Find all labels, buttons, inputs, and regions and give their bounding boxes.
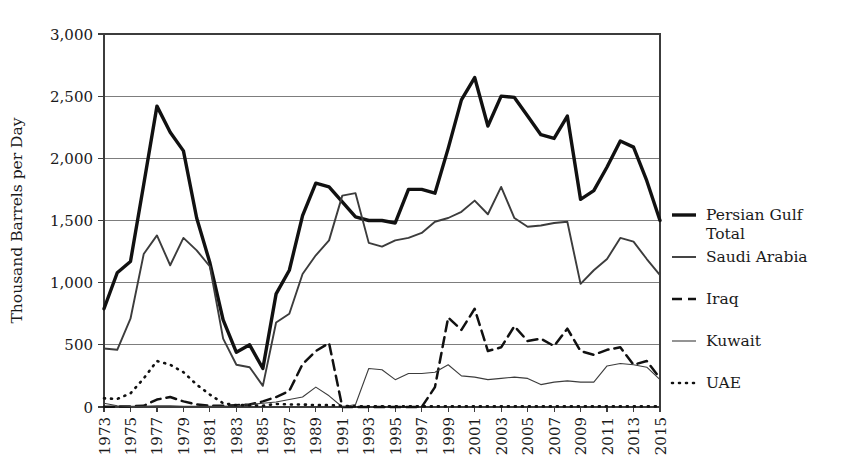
y-tick-label: 2,500 bbox=[50, 88, 93, 106]
y-tick-label: 3,000 bbox=[50, 26, 93, 44]
x-tick-label: 1975 bbox=[122, 417, 140, 455]
x-tick-label: 1991 bbox=[334, 417, 352, 455]
y-axis-title-text: Thousand Barrels per Day bbox=[8, 117, 26, 323]
x-tick-label: 1985 bbox=[254, 417, 272, 455]
x-tick-label: 2003 bbox=[493, 417, 511, 455]
x-tick-label: 2005 bbox=[519, 417, 537, 455]
x-tick-label: 1981 bbox=[201, 417, 219, 455]
legend-label: Kuwait bbox=[706, 332, 762, 350]
line-chart: 05001,0001,5002,0002,5003,000 Thousand B… bbox=[0, 0, 843, 472]
x-tick-label: 1979 bbox=[175, 417, 193, 455]
x-tick-label: 2013 bbox=[625, 417, 643, 455]
legend-label: Persian Gulf bbox=[706, 206, 804, 224]
x-tick-label: 1995 bbox=[387, 417, 405, 455]
x-tick-label: 2011 bbox=[599, 417, 617, 455]
x-tick-label: 1973 bbox=[96, 417, 114, 455]
x-tick-label: 1997 bbox=[413, 417, 431, 455]
legend-label: UAE bbox=[706, 374, 741, 392]
y-tick-label: 0 bbox=[83, 399, 93, 417]
legend-label-continued: Total bbox=[706, 225, 745, 243]
chart-container: 05001,0001,5002,0002,5003,000 Thousand B… bbox=[0, 0, 843, 472]
x-tick-label: 2007 bbox=[546, 417, 564, 455]
x-tick-label: 1977 bbox=[148, 417, 166, 455]
y-tick-label: 1,000 bbox=[50, 274, 93, 292]
x-tick-label: 1999 bbox=[440, 417, 458, 455]
legend-label: Saudi Arabia bbox=[706, 248, 808, 266]
legend-label: Iraq bbox=[706, 290, 739, 308]
x-tick-label: 1993 bbox=[360, 417, 378, 455]
x-tick-label: 2015 bbox=[652, 417, 670, 455]
x-tick-label: 1983 bbox=[228, 417, 246, 455]
y-tick-label: 1,500 bbox=[50, 212, 93, 230]
y-axis-title: Thousand Barrels per Day bbox=[8, 117, 26, 323]
x-tick-label: 2001 bbox=[466, 417, 484, 455]
y-tick-label: 500 bbox=[64, 336, 93, 354]
x-tick-label: 1987 bbox=[281, 417, 299, 455]
y-tick-label: 2,000 bbox=[50, 150, 93, 168]
x-tick-label: 1989 bbox=[307, 417, 325, 455]
x-tick-label: 2009 bbox=[572, 417, 590, 455]
